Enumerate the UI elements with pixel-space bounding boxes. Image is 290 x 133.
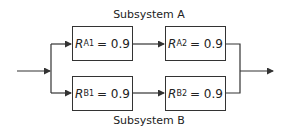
subsystem-a-title: Subsystem A bbox=[113, 8, 185, 21]
block-a2-value: = 0.9 bbox=[190, 37, 223, 51]
block-a2-symbol: R bbox=[168, 37, 176, 51]
block-a2-subscript: A2 bbox=[176, 39, 187, 48]
block-b2: RB2 = 0.9 bbox=[165, 76, 226, 111]
block-a1-subscript: A1 bbox=[83, 39, 94, 48]
block-a2: RA2 = 0.9 bbox=[165, 26, 226, 61]
block-b2-symbol: R bbox=[168, 87, 176, 101]
block-b2-subscript: B2 bbox=[176, 89, 187, 98]
subsystem-b-title: Subsystem B bbox=[113, 114, 185, 127]
block-a1-symbol: R bbox=[75, 37, 83, 51]
block-b1: RB1 = 0.9 bbox=[72, 76, 133, 111]
block-b1-subscript: B1 bbox=[83, 89, 94, 98]
merge-junction bbox=[226, 44, 240, 93]
block-b1-symbol: R bbox=[75, 87, 83, 101]
block-a1: RA1 = 0.9 bbox=[72, 26, 133, 61]
reliability-block-diagram: Subsystem A RA1 = 0.9 RA2 = 0.9 RB1 = 0.… bbox=[0, 0, 290, 133]
block-b2-value: = 0.9 bbox=[190, 87, 223, 101]
block-a1-value: = 0.9 bbox=[97, 37, 130, 51]
block-b1-value: = 0.9 bbox=[97, 87, 130, 101]
